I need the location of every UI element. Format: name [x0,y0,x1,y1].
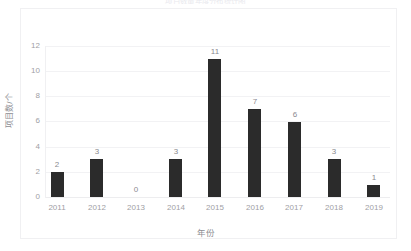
x-tick-label-2014: 2014 [159,203,193,212]
x-tick-label-2016: 2016 [238,203,272,212]
x-axis-title: 年份 [0,226,411,238]
bar-value-2011: 2 [44,161,70,169]
y-tick-label-10: 10 [22,67,40,75]
bar-value-2017: 6 [282,111,308,119]
x-tick-label-2015: 2015 [198,203,232,212]
bar-2016[interactable] [248,109,261,197]
y-tick-label-8: 8 [22,92,40,100]
x-tick-label-2017: 2017 [277,203,311,212]
bar-2017[interactable] [288,122,301,197]
x-tick-label-2018: 2018 [317,203,351,212]
bar-2014[interactable] [169,159,182,197]
y-tick-label-0: 0 [22,193,40,201]
x-tick-label-2012: 2012 [80,203,114,212]
y-tick-label-4: 4 [22,143,40,151]
bar-2011[interactable] [51,172,64,197]
bar-value-2018: 3 [321,148,347,156]
x-tick-label-2013: 2013 [119,203,153,212]
bar-value-2015: 11 [202,48,228,56]
y-tick-label-2: 2 [22,168,40,176]
y-tick-label-12: 12 [22,42,40,50]
bar-value-2013: 0 [123,186,149,194]
bar-value-2012: 3 [84,148,110,156]
y-tick-label-6: 6 [22,117,40,125]
y-axis-line [45,46,46,198]
bar-2015[interactable] [208,59,221,197]
bar-value-2019: 1 [361,174,387,182]
bar-2012[interactable] [90,159,103,197]
bar-2019[interactable] [367,185,380,197]
bar-2018[interactable] [328,159,341,197]
bar-value-2014: 3 [163,148,189,156]
bar-value-2016: 7 [242,98,268,106]
bar-chart: 项目数/个 12 10 8 6 4 2 0 2 3 0 3 11 7 6 3 1… [0,0,411,251]
x-tick-label-2019: 2019 [357,203,391,212]
y-axis-title: 项目数/个 [3,81,14,141]
gridline-0 [46,197,390,198]
x-tick-label-2011: 2011 [40,203,74,212]
